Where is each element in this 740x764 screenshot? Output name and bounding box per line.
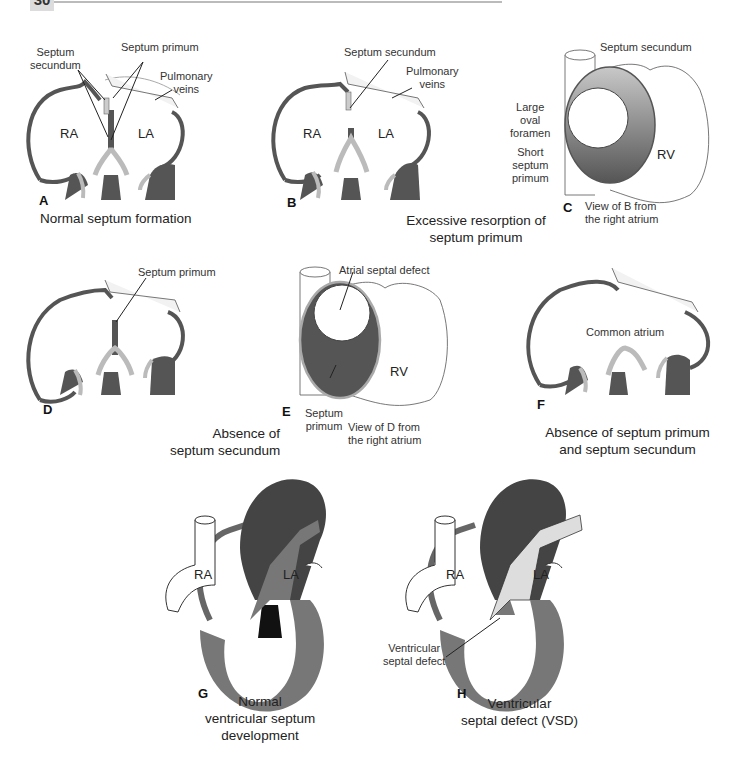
panel-a-label-septum-secundum: Septumsecundum xyxy=(30,46,81,72)
panel-g-label-ra: RA xyxy=(194,568,212,581)
panel-g-label-la: LA xyxy=(283,568,299,581)
panel-e-label-atrial-septal-defect: Atrial septal defect xyxy=(339,264,430,277)
panel-a-label-pulmonary-veins: Pulmonaryveins xyxy=(160,70,213,96)
panel-d-label-septum-primum: Septum primum xyxy=(138,266,216,279)
panel-f-letter: F xyxy=(537,398,545,411)
panel-g-caption: Normalventricular septumdevelopment xyxy=(205,693,315,744)
panel-d-heart xyxy=(28,278,183,402)
panel-d-caption: Absence ofseptum secundum xyxy=(170,425,280,459)
panel-e-caption: View of D fromthe right atrium xyxy=(348,421,421,447)
panel-h-label-ra: RA xyxy=(446,568,464,581)
panel-a-label-ra: RA xyxy=(60,127,78,140)
panel-e-letter: E xyxy=(282,405,291,418)
panel-c-caption: View of B fromthe right atrium xyxy=(585,200,658,226)
panel-e-heart xyxy=(300,267,447,405)
panel-c-label-rv: RV xyxy=(657,148,675,161)
panel-g-heart xyxy=(166,479,326,711)
panel-c-heart xyxy=(565,50,709,203)
panel-b-letter: B xyxy=(287,196,296,209)
panel-f-caption: Absence of septum primumand septum secun… xyxy=(545,424,710,458)
panel-b-label-pulmonary-veins: Pulmonaryveins xyxy=(406,65,459,91)
panel-a-label-septum-primum: Septum primum xyxy=(121,41,199,54)
panel-b-label-la: LA xyxy=(378,127,394,140)
panel-b-label-septum-secundum: Septum secundum xyxy=(344,46,436,59)
panel-b-label-ra: RA xyxy=(303,127,321,140)
panel-f-label-common-atrium: Common atrium xyxy=(586,326,664,339)
panel-a-caption: Normal septum formation xyxy=(40,210,192,227)
panel-e-label-septum-primum: Septumprimum xyxy=(305,407,343,433)
panel-c-label-septum-secundum: Septum secundum xyxy=(600,41,692,54)
panel-e-label-rv: RV xyxy=(390,365,408,378)
figure-artwork xyxy=(0,0,740,764)
panel-d-letter: D xyxy=(43,403,52,416)
panel-h-label-la: LA xyxy=(533,568,549,581)
panel-h-caption: Ventricularseptal defect (VSD) xyxy=(452,695,587,729)
panel-a-label-la: LA xyxy=(138,127,154,140)
panel-c-letter: C xyxy=(563,201,572,214)
panel-b-caption: Excessive resorption ofseptum primum xyxy=(405,212,547,246)
panel-c-label-short-septum-primum: Shortseptumprimum xyxy=(512,146,549,185)
panel-a-letter: A xyxy=(39,194,48,207)
panel-c-label-large-oval-foramen: Largeovalforamen xyxy=(510,101,550,140)
panel-h-label-ventricular-septal-defect: Ventricularseptal defect xyxy=(383,642,445,668)
panel-h-heart xyxy=(406,479,582,711)
